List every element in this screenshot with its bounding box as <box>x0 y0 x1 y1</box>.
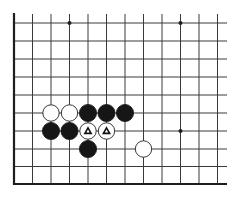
white-stone-icon <box>98 123 114 139</box>
black-stone-icon <box>116 104 133 121</box>
black-stone <box>61 122 78 139</box>
black-stone-icon <box>42 122 59 139</box>
white-stone <box>43 105 59 121</box>
black-stone-icon <box>61 122 78 139</box>
white-stone <box>98 123 114 139</box>
white-stone <box>135 141 151 157</box>
black-stone <box>79 140 96 157</box>
black-stone-icon <box>98 104 115 121</box>
white-stone-icon <box>61 105 77 121</box>
black-stone-icon <box>79 104 96 121</box>
go-board-svg <box>0 0 241 199</box>
star-point <box>68 21 72 25</box>
white-stone <box>61 105 77 121</box>
star-point <box>179 129 183 133</box>
black-stone <box>116 104 133 121</box>
white-stone-icon <box>80 123 96 139</box>
black-stone <box>79 104 96 121</box>
grid-lines <box>14 14 227 184</box>
board-edges <box>13 13 227 185</box>
white-stone-icon <box>43 105 59 121</box>
black-stone-icon <box>79 140 96 157</box>
go-board-diagram <box>0 0 241 199</box>
black-stone <box>42 122 59 139</box>
star-point <box>179 21 183 25</box>
white-stone <box>80 123 96 139</box>
black-stone <box>98 104 115 121</box>
white-stone-icon <box>135 141 151 157</box>
